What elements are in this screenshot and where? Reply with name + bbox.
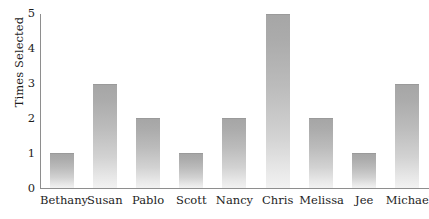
bar-series bbox=[40, 14, 429, 188]
y-tick-label: 0 bbox=[19, 183, 35, 195]
bar[interactable] bbox=[93, 84, 117, 188]
bar[interactable] bbox=[395, 84, 419, 188]
x-tick-label: Bethany bbox=[40, 193, 83, 213]
x-tick-label: Chris bbox=[256, 193, 299, 213]
y-tick-label: 5 bbox=[19, 8, 35, 20]
x-tick-label: Jee bbox=[343, 193, 386, 213]
bar[interactable] bbox=[266, 14, 290, 188]
bar-slot bbox=[213, 14, 256, 188]
x-tick-label: Scott bbox=[170, 193, 213, 213]
x-tick-label: Pablo bbox=[126, 193, 169, 213]
bar[interactable] bbox=[50, 153, 74, 188]
bar-slot bbox=[299, 14, 342, 188]
bar-slot bbox=[170, 14, 213, 188]
x-tick-label: Michael bbox=[386, 193, 429, 213]
bar-slot bbox=[40, 14, 83, 188]
x-axis-tick-labels: BethanySusanPabloScottNancyChrisMelissaJ… bbox=[40, 193, 429, 213]
plot-area bbox=[40, 14, 429, 189]
bar-slot bbox=[386, 14, 429, 188]
bar[interactable] bbox=[352, 153, 376, 188]
y-tick-label: 2 bbox=[19, 113, 35, 125]
bar-slot bbox=[343, 14, 386, 188]
bar-slot bbox=[83, 14, 126, 188]
bar[interactable] bbox=[136, 118, 160, 188]
y-tick-label: 4 bbox=[19, 43, 35, 55]
bar-slot bbox=[256, 14, 299, 188]
y-tick-label: 3 bbox=[19, 78, 35, 90]
y-axis-tick-labels: 012345 bbox=[19, 0, 35, 219]
x-tick-label: Melissa bbox=[299, 193, 342, 213]
bar-chart: Times Selected 012345 BethanySusanPabloS… bbox=[0, 0, 429, 219]
x-axis-line bbox=[40, 188, 429, 189]
bar[interactable] bbox=[179, 153, 203, 188]
x-tick-label: Susan bbox=[83, 193, 126, 213]
bar-slot bbox=[126, 14, 169, 188]
y-tick-label: 1 bbox=[19, 148, 35, 160]
x-tick-label: Nancy bbox=[213, 193, 256, 213]
bar[interactable] bbox=[222, 118, 246, 188]
bar[interactable] bbox=[309, 118, 333, 188]
